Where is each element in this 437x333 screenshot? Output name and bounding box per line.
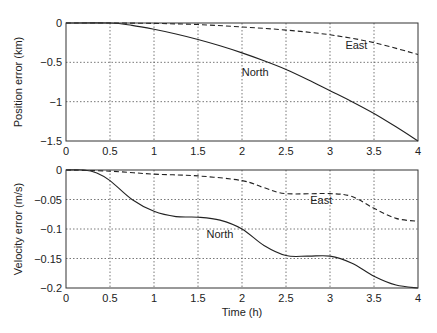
velocity-error-plot: 00.511.522.533.540−0.05−0.1−0.15−0.2Nort… <box>12 164 421 318</box>
x-tick-label: 2 <box>239 292 245 304</box>
y-axis-label: Velocity error (m/s) <box>12 183 24 275</box>
x-tick-label: 2 <box>239 145 245 157</box>
x-tick-label: 4 <box>415 292 421 304</box>
x-tick-label: 3.5 <box>366 145 381 157</box>
annotation-north: North <box>207 228 234 240</box>
annotation-north: North <box>242 66 269 78</box>
x-tick-label: 2.5 <box>278 292 293 304</box>
x-axis-label: Time (h) <box>222 306 263 318</box>
x-tick-label: 1.5 <box>190 145 205 157</box>
x-tick-label: 3 <box>327 145 333 157</box>
y-tick-label: 0 <box>56 17 62 29</box>
x-tick-label: 1 <box>151 145 157 157</box>
x-tick-label: 0 <box>63 292 69 304</box>
y-tick-label: −1 <box>49 96 62 108</box>
x-tick-label: 0 <box>63 145 69 157</box>
annotation-east: East <box>310 194 332 206</box>
y-tick-label: −0.1 <box>40 223 62 235</box>
x-tick-label: 0.5 <box>102 292 117 304</box>
annotation-east: East <box>345 39 367 51</box>
y-tick-label: −0.5 <box>40 56 62 68</box>
y-tick-label: −0.2 <box>40 282 62 294</box>
x-tick-label: 3.5 <box>366 292 381 304</box>
x-tick-label: 0.5 <box>102 145 117 157</box>
y-axis-label: Position error (km) <box>12 37 24 127</box>
x-tick-label: 2.5 <box>278 145 293 157</box>
position-error-plot: 00.511.522.533.540−0.5−1−1.5NorthEastPos… <box>12 17 421 157</box>
y-tick-label: −1.5 <box>40 135 62 147</box>
y-tick-label: 0 <box>56 164 62 176</box>
y-tick-label: −0.05 <box>34 194 62 206</box>
x-tick-label: 1.5 <box>190 292 205 304</box>
y-tick-label: −0.15 <box>34 253 62 265</box>
x-tick-label: 3 <box>327 292 333 304</box>
x-tick-label: 1 <box>151 292 157 304</box>
figure: 00.511.522.533.540−0.5−1−1.5NorthEastPos… <box>0 0 437 333</box>
x-tick-label: 4 <box>415 145 421 157</box>
